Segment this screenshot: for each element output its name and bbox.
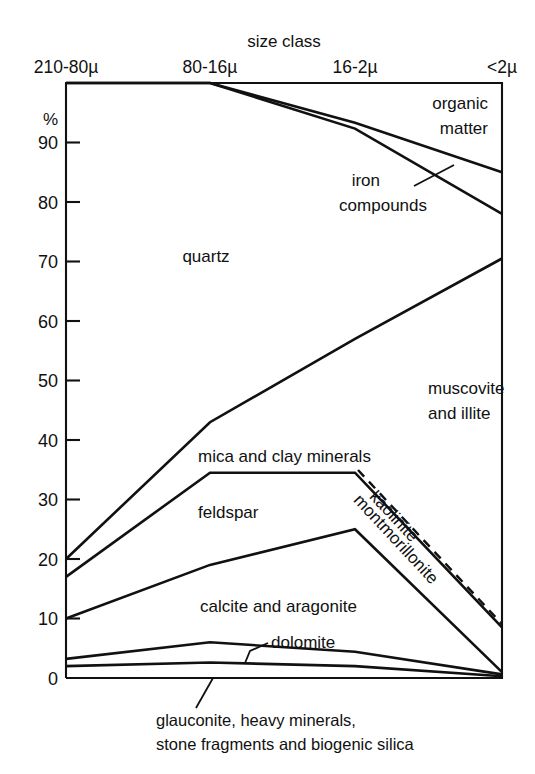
y-tick-label-30: 30 xyxy=(38,490,58,510)
y-tick-label-60: 60 xyxy=(38,312,58,332)
label-calcite-and-aragonite: calcite and aragonite xyxy=(200,597,357,616)
label-muscovite-line2: and illite xyxy=(428,404,490,423)
x-tick-label-3: <2µ xyxy=(487,57,517,77)
y-tick-label-70: 70 xyxy=(38,252,58,272)
figure-container: % 90 80 70 60 50 40 30 20 10 0 size clas… xyxy=(0,0,535,774)
y-tick-label-50: 50 xyxy=(38,371,58,391)
y-tick-label-0: 0 xyxy=(48,669,58,689)
label-organic-matter: organic matter xyxy=(432,94,488,138)
x-tick-label-0: 210-80µ xyxy=(34,57,99,77)
label-glauconite-line1: glauconite, heavy minerals, xyxy=(156,711,356,729)
label-feldspar: feldspar xyxy=(198,503,259,522)
y-tick-label-20: 20 xyxy=(38,550,58,570)
label-organic-matter-line2: matter xyxy=(440,119,489,138)
y-tick-label-40: 40 xyxy=(38,431,58,451)
label-muscovite-line1: muscovite xyxy=(428,379,505,398)
x-axis-tick-labels: 210-80µ 80-16µ 16-2µ <2µ xyxy=(34,57,517,77)
label-iron-compounds-line1: iron xyxy=(352,171,380,190)
y-tick-label-90: 90 xyxy=(38,133,58,153)
label-mica-and-clay-minerals: mica and clay minerals xyxy=(198,447,371,466)
y-axis-unit-label: % xyxy=(43,110,58,129)
label-organic-matter-line1: organic xyxy=(432,94,488,113)
x-tick-label-1: 80-16µ xyxy=(183,57,238,77)
y-tick-label-80: 80 xyxy=(38,193,58,213)
label-dolomite: dolomite xyxy=(245,633,335,663)
x-tick-label-2: 16-2µ xyxy=(332,57,377,77)
label-quartz: quartz xyxy=(182,247,229,266)
sediment-composition-chart: % 90 80 70 60 50 40 30 20 10 0 size clas… xyxy=(0,0,535,774)
label-muscovite-and-illite: muscovite and illite xyxy=(428,379,505,423)
label-iron-compounds: iron compounds xyxy=(339,165,454,215)
label-glauconite-line2: stone fragments and biogenic silica xyxy=(156,735,415,753)
label-glauconite-group: glauconite, heavy minerals, stone fragme… xyxy=(156,678,415,753)
chart-title: size class xyxy=(247,32,321,51)
leader-glauconite xyxy=(196,678,213,708)
y-axis-tick-labels: % 90 80 70 60 50 40 30 20 10 0 xyxy=(38,110,58,689)
y-tick-label-10: 10 xyxy=(38,609,58,629)
label-iron-compounds-line2: compounds xyxy=(339,196,427,215)
label-dolomite-text: dolomite xyxy=(271,633,335,652)
